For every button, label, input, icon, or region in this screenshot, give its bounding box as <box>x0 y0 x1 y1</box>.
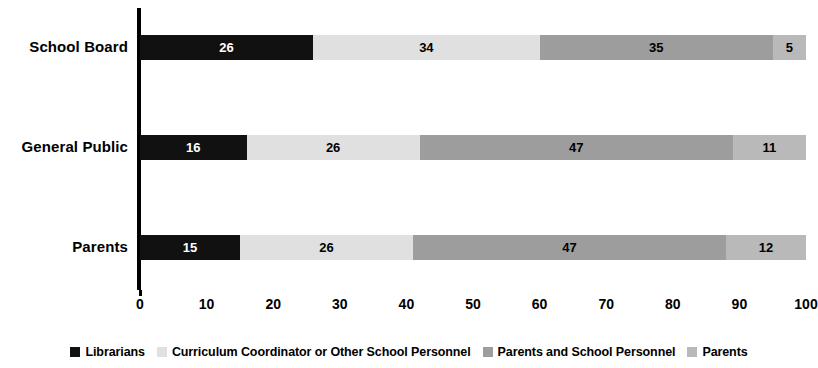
bar-segment-value-label: 34 <box>419 41 433 54</box>
stacked-bar-chart: School BoardGeneral PublicParents 263435… <box>0 0 818 368</box>
x-axis-tick-label: 20 <box>265 296 281 312</box>
bar-segment: 34 <box>313 35 539 60</box>
legend-label: Parents <box>702 345 747 359</box>
legend-item[interactable]: Parents and School Personnel <box>483 345 676 359</box>
bar-segment: 26 <box>247 135 420 160</box>
bar-school-board: 2634355 <box>140 35 806 60</box>
x-axis-tick-label: 90 <box>732 296 748 312</box>
x-axis-tick-label: 30 <box>332 296 348 312</box>
x-axis-tick-label: 100 <box>794 296 817 312</box>
bar-segment-value-label: 26 <box>319 241 333 254</box>
bar-parents: 15264712 <box>140 235 806 260</box>
bar-segment: 11 <box>733 135 806 160</box>
plot-area: 26343551626471115264712 <box>140 8 806 290</box>
legend-swatch-icon <box>687 347 697 357</box>
x-axis-tick-label: 60 <box>532 296 548 312</box>
bar-segment-value-label: 12 <box>759 241 773 254</box>
x-axis-tick-label: 0 <box>136 296 144 312</box>
bar-segment: 26 <box>140 35 313 60</box>
legend-swatch-icon <box>157 347 167 357</box>
bar-segment-value-label: 26 <box>326 141 340 154</box>
legend-item[interactable]: Librarians <box>70 345 144 359</box>
bar-segment-value-label: 26 <box>219 41 233 54</box>
category-label-school-board: School Board <box>0 38 128 55</box>
bar-segment: 47 <box>420 135 733 160</box>
x-axis-tick-label: 40 <box>399 296 415 312</box>
bar-segment: 26 <box>240 235 413 260</box>
bar-segment-value-label: 47 <box>562 241 576 254</box>
x-axis-tick-labels: 0102030405060708090100 <box>140 296 806 316</box>
x-axis-tick-label: 70 <box>598 296 614 312</box>
bar-segment-value-label: 15 <box>183 241 197 254</box>
legend-swatch-icon <box>70 347 80 357</box>
legend-item[interactable]: Curriculum Coordinator or Other School P… <box>157 345 471 359</box>
bar-segment: 47 <box>413 235 726 260</box>
bar-segment-value-label: 35 <box>649 41 663 54</box>
bar-general-public: 16264711 <box>140 135 806 160</box>
legend-item[interactable]: Parents <box>687 345 747 359</box>
bar-segment: 35 <box>540 35 773 60</box>
legend-label: Curriculum Coordinator or Other School P… <box>172 345 471 359</box>
bar-segment: 5 <box>773 35 806 60</box>
legend-swatch-icon <box>483 347 493 357</box>
x-axis-tick-label: 10 <box>199 296 215 312</box>
bar-segment-value-label: 47 <box>569 141 583 154</box>
bar-segment-value-label: 11 <box>762 141 776 154</box>
chart-legend: LibrariansCurriculum Coordinator or Othe… <box>0 345 818 359</box>
bar-segment: 15 <box>140 235 240 260</box>
bar-segment-value-label: 16 <box>186 141 200 154</box>
legend-label: Parents and School Personnel <box>498 345 676 359</box>
category-label-parents: Parents <box>0 238 128 255</box>
category-label-general-public: General Public <box>0 138 128 155</box>
bar-segment: 12 <box>726 235 806 260</box>
x-axis-tick-label: 80 <box>665 296 681 312</box>
x-axis-tick-label: 50 <box>465 296 481 312</box>
legend-label: Librarians <box>85 345 144 359</box>
bar-segment: 16 <box>140 135 247 160</box>
bar-segment-value-label: 5 <box>786 41 793 54</box>
